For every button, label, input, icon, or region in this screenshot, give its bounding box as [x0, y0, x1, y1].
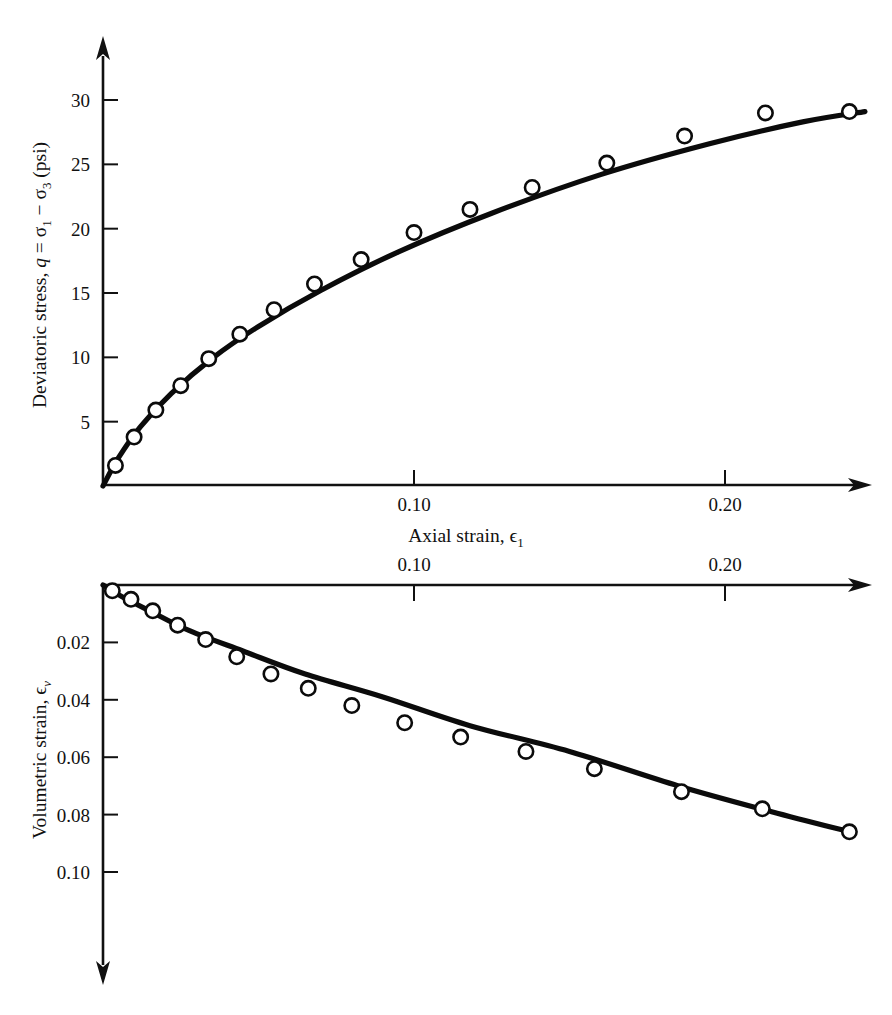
y-tick-label: 5 — [81, 412, 91, 433]
x-tick-label: 0.10 — [397, 494, 430, 515]
y-tick-label: 0.06 — [57, 747, 90, 768]
y-tick-label: 0.10 — [57, 862, 90, 883]
data-point-marker — [587, 761, 601, 775]
data-point-marker — [600, 156, 614, 170]
data-point-marker — [307, 277, 321, 291]
data-point-marker — [202, 351, 216, 365]
upper-x-ticklabel-group: 0.100.20 — [397, 494, 741, 515]
y-tick-label: 30 — [71, 90, 90, 111]
upper-y-axis-title: Deviatoric stress, q = σ1 − σ3 (psi) — [29, 142, 54, 408]
y-tick-label: 0.02 — [57, 632, 90, 653]
x-tick-label: 0.10 — [397, 554, 430, 575]
data-point-marker — [407, 225, 421, 239]
upper-y-tick-group — [103, 100, 118, 422]
upper-x-axis-title: Axial strain, ϵ1 — [408, 525, 524, 550]
lower-y-ticklabel-group: 0.020.040.060.080.10 — [57, 632, 91, 883]
data-point-marker — [267, 303, 281, 317]
data-point-marker — [453, 730, 467, 744]
data-point-marker — [345, 698, 359, 712]
upper-fitted-curve — [103, 112, 865, 486]
data-point-marker — [233, 327, 247, 341]
lower-data-markers — [105, 584, 856, 839]
svg-text:Deviatoric stress, q = σ1 − σ3: Deviatoric stress, q = σ1 − σ3 (psi) — [29, 142, 54, 408]
data-point-marker — [198, 632, 212, 646]
lower-y-axis-title: Volumetric strain, ϵv — [29, 681, 54, 839]
y-tick-label: 10 — [71, 347, 90, 368]
y-tick-label: 25 — [71, 154, 90, 175]
data-point-marker — [463, 202, 477, 216]
data-point-marker — [525, 180, 539, 194]
x-tick-label: 0.20 — [708, 494, 741, 515]
data-point-marker — [108, 458, 122, 472]
upper-y-ticklabel-group: 30252015105 — [71, 90, 90, 433]
lower-plot: 0.020.040.060.080.10 0.100.20 — [57, 554, 872, 985]
svg-text:Axial strain, ϵ1: Axial strain, ϵ1 — [408, 525, 524, 550]
svg-text:Volumetric strain, ϵv: Volumetric strain, ϵv — [29, 681, 54, 839]
data-point-marker — [301, 681, 315, 695]
figure-svg: 30252015105 0.100.20 Deviatoric stress, … — [0, 0, 892, 1015]
lower-fitted-curve — [103, 585, 849, 832]
upper-x-tick-group — [414, 470, 725, 485]
data-point-marker — [174, 378, 188, 392]
y-tick-label: 0.04 — [57, 690, 91, 711]
lower-y-tick-group — [103, 642, 118, 872]
y-tick-label: 15 — [71, 283, 90, 304]
upper-plot: 30252015105 0.100.20 — [71, 36, 872, 515]
y-tick-label: 0.08 — [57, 805, 90, 826]
data-point-marker — [677, 129, 691, 143]
data-point-marker — [230, 650, 244, 664]
data-point-marker — [842, 825, 856, 839]
data-point-marker — [755, 802, 769, 816]
lower-x-ticklabel-group: 0.100.20 — [397, 554, 741, 575]
figure-container: 30252015105 0.100.20 Deviatoric stress, … — [0, 0, 892, 1015]
y-tick-label: 20 — [71, 219, 90, 240]
data-point-marker — [397, 716, 411, 730]
data-point-marker — [105, 584, 119, 598]
data-point-marker — [146, 604, 160, 618]
data-point-marker — [264, 667, 278, 681]
upper-data-markers — [108, 104, 856, 472]
x-tick-label: 0.20 — [708, 554, 741, 575]
data-point-marker — [149, 403, 163, 417]
data-point-marker — [127, 430, 141, 444]
data-point-marker — [354, 252, 368, 266]
data-point-marker — [124, 592, 138, 606]
data-point-marker — [758, 106, 772, 120]
data-point-marker — [170, 618, 184, 632]
data-point-marker — [674, 784, 688, 798]
data-point-marker — [519, 744, 533, 758]
data-point-marker — [842, 104, 856, 118]
lower-x-tick-group — [414, 585, 725, 601]
